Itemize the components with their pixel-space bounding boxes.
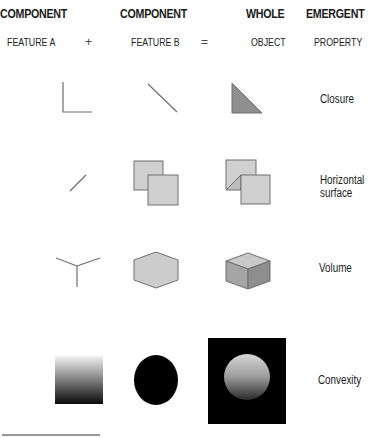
y-junction-icon bbox=[56, 258, 100, 287]
hexagon-icon bbox=[134, 252, 178, 288]
black-ellipse-icon bbox=[134, 355, 178, 405]
overlapping-squares-icon bbox=[134, 161, 178, 205]
footer-rule bbox=[2, 434, 100, 436]
shaded-sphere-icon bbox=[208, 338, 286, 424]
diagram-figures bbox=[0, 0, 372, 438]
property-label-convexity: Convexity bbox=[318, 374, 361, 387]
property-label-closure: Closure bbox=[320, 93, 354, 106]
slanted-line-icon bbox=[70, 175, 86, 191]
property-label-volume: Volume bbox=[319, 262, 352, 275]
gradient-square-icon bbox=[55, 356, 103, 404]
filled-triangle-icon bbox=[232, 83, 262, 113]
diagonal-line-icon bbox=[148, 84, 177, 112]
cube-icon bbox=[226, 253, 270, 289]
overlapping-squares-surface-icon bbox=[226, 160, 270, 204]
property-label-horizontal-surface-line2: surface bbox=[320, 187, 352, 200]
corner-lines-icon bbox=[63, 82, 92, 112]
